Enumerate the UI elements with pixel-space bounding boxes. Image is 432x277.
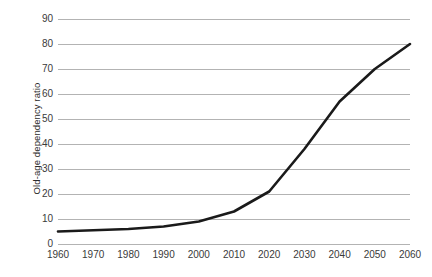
x-tick-label: 1970 xyxy=(73,250,113,260)
chart-container: Old-age dependency ratio 010203040506070… xyxy=(0,0,432,277)
plot-area xyxy=(58,19,410,244)
series-polyline xyxy=(58,44,410,232)
x-tick-label: 1990 xyxy=(144,250,184,260)
x-tick-label: 2060 xyxy=(390,250,430,260)
x-tick-label: 2040 xyxy=(320,250,360,260)
x-tick-label: 2030 xyxy=(284,250,324,260)
line-series xyxy=(54,15,414,248)
x-tick-label: 2010 xyxy=(214,250,254,260)
x-tick-label: 2050 xyxy=(355,250,395,260)
x-axis-tick-labels: 1960197019801990200020102020203020402050… xyxy=(58,250,410,266)
y-axis-title: Old-age dependency ratio xyxy=(18,0,54,277)
x-tick-label: 2020 xyxy=(249,250,289,260)
x-tick-label: 1960 xyxy=(38,250,78,260)
x-tick-label: 2000 xyxy=(179,250,219,260)
x-tick-label: 1980 xyxy=(108,250,148,260)
